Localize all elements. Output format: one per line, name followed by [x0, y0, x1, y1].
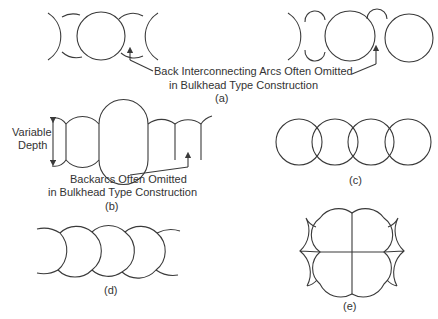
- panel-a-label: (a): [215, 92, 228, 104]
- panel-d-cells: [37, 225, 180, 278]
- left-connecting-arc-top: [62, 14, 80, 17]
- cell-circle: [276, 119, 322, 165]
- panel-e-cells: [300, 209, 404, 297]
- panel-a-annotation-line-2: in Bulkhead Type Construction: [169, 79, 318, 91]
- left-end-arc-top: [52, 118, 66, 124]
- cell-arc-top-partial: [201, 116, 212, 124]
- panel-d-label: (d): [104, 284, 117, 296]
- panel-a-left-cells: [48, 12, 158, 60]
- main-cell-circle: [77, 12, 125, 60]
- panel-b-annotation-line-1: Backarcs Often Omitted: [70, 173, 187, 185]
- right-connecting-arc-bottom: [121, 53, 143, 58]
- panel-a-right-cells: [288, 9, 433, 64]
- end-arc-top: [37, 228, 60, 233]
- end-arc-top: [157, 230, 180, 233]
- left-connecting-arcs: [300, 218, 320, 286]
- small-arc-bottom: [305, 50, 325, 61]
- variable-depth-label-1: Variable: [12, 126, 52, 138]
- panel-c-label: (c): [349, 174, 362, 186]
- end-arc-bottom: [37, 270, 58, 274]
- leader-line-left: [130, 60, 153, 71]
- right-connecting-arc-top: [119, 13, 143, 19]
- cell-outline: [58, 226, 101, 277]
- cell-outline: [122, 226, 165, 278]
- cell-arc-top: [66, 117, 99, 124]
- variable-depth-label-2: Depth: [18, 139, 47, 151]
- cell-outline: [92, 225, 134, 276]
- left-connecting-arc-bottom: [62, 52, 82, 58]
- left-partial-cell-arc: [288, 13, 301, 60]
- cellular-cofferdam-diagram: Back Interconnecting Arcs Often Omitted …: [0, 0, 438, 319]
- right-partial-cell-arc: [145, 13, 158, 60]
- panel-c-cells: [276, 119, 431, 165]
- left-partial-cell-arc: [48, 13, 61, 60]
- panel-b-cells: [52, 100, 212, 185]
- small-arc-top-2: [367, 9, 387, 19]
- cell-arc-bottom: [66, 160, 99, 167]
- leader-line-right: [352, 64, 376, 74]
- cell-circle: [348, 119, 394, 165]
- small-arc-top: [305, 11, 325, 22]
- cell-arc-top: [99, 100, 148, 125]
- cell-circle: [385, 119, 431, 165]
- cell-arc-top: [148, 119, 175, 124]
- left-end-arc-bottom: [52, 160, 66, 166]
- cell-arc-top: [175, 120, 201, 124]
- panel-a-annotation-line-1: Back Interconnecting Arcs Often Omitted: [154, 65, 353, 77]
- cell-circle: [312, 119, 358, 165]
- panel-b-annotation-line-2: in Bulkhead Type Construction: [48, 186, 197, 198]
- panel-b-label: (b): [105, 200, 118, 212]
- panel-e-label: (e): [343, 300, 356, 312]
- right-connecting-arcs: [384, 218, 404, 286]
- end-arc-bottom: [156, 270, 178, 275]
- right-cell-circle: [385, 14, 433, 62]
